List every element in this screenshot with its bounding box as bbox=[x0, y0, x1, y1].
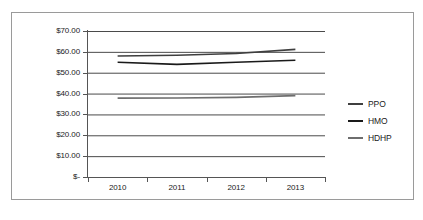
x-axis-tick-mark bbox=[325, 178, 326, 182]
legend-item-hmo[interactable]: HMO bbox=[348, 112, 410, 129]
x-axis-tick-mark bbox=[266, 178, 267, 182]
y-axis-tick-label: $40.00 bbox=[22, 90, 80, 98]
y-axis-tick-label: $50.00 bbox=[22, 69, 80, 77]
legend-line-icon bbox=[348, 137, 363, 139]
x-axis-tick-label: 2010 bbox=[88, 183, 147, 197]
x-axis-tick-labels: 2010201120122013 bbox=[88, 183, 325, 197]
y-axis-tick-label: $- bbox=[22, 173, 80, 181]
legend-line-icon bbox=[348, 120, 363, 122]
chart-legend: PPOHMOHDHP bbox=[348, 95, 410, 146]
legend-item-label: HDHP bbox=[368, 133, 392, 143]
x-axis-tick-mark bbox=[147, 178, 148, 182]
y-axis-tick-label: $10.00 bbox=[22, 152, 80, 160]
y-axis-tick-label: $30.00 bbox=[22, 110, 80, 118]
legend-item-hdhp[interactable]: HDHP bbox=[348, 129, 410, 146]
y-axis-tick-mark bbox=[83, 114, 87, 115]
y-axis-tick-mark bbox=[83, 135, 87, 136]
series-line-hdhp bbox=[118, 96, 296, 99]
y-axis-tick-mark bbox=[83, 94, 87, 95]
y-axis-tick-mark bbox=[83, 73, 87, 74]
chart-series-svg bbox=[88, 31, 325, 177]
chart-figure: $-$10.00$20.00$30.00$40.00$50.00$60.00$7… bbox=[11, 12, 414, 200]
x-axis-tick-mark bbox=[88, 178, 89, 182]
x-axis-tick-label: 2012 bbox=[207, 183, 266, 197]
y-axis-tick-mark bbox=[83, 31, 87, 32]
series-line-hmo bbox=[118, 60, 296, 64]
y-axis-tick-label: $70.00 bbox=[22, 27, 80, 35]
x-axis-tick-label: 2013 bbox=[266, 183, 325, 197]
legend-item-ppo[interactable]: PPO bbox=[348, 95, 410, 112]
y-axis-tick-label: $20.00 bbox=[22, 131, 80, 139]
y-axis-tick-mark bbox=[83, 52, 87, 53]
legend-item-label: PPO bbox=[368, 99, 386, 109]
plot-area bbox=[88, 31, 325, 177]
x-axis-tick-label: 2011 bbox=[147, 183, 206, 197]
x-axis-tick-mark bbox=[207, 178, 208, 182]
legend-line-icon bbox=[348, 103, 363, 105]
y-axis-tick-mark bbox=[83, 177, 87, 178]
y-axis-tick-labels: $-$10.00$20.00$30.00$40.00$50.00$60.00$7… bbox=[22, 31, 80, 177]
legend-item-label: HMO bbox=[368, 116, 388, 126]
chart-plot-wrapper: $-$10.00$20.00$30.00$40.00$50.00$60.00$7… bbox=[12, 13, 413, 199]
y-axis-tick-label: $60.00 bbox=[22, 48, 80, 56]
y-axis-tick-mark bbox=[83, 156, 87, 157]
